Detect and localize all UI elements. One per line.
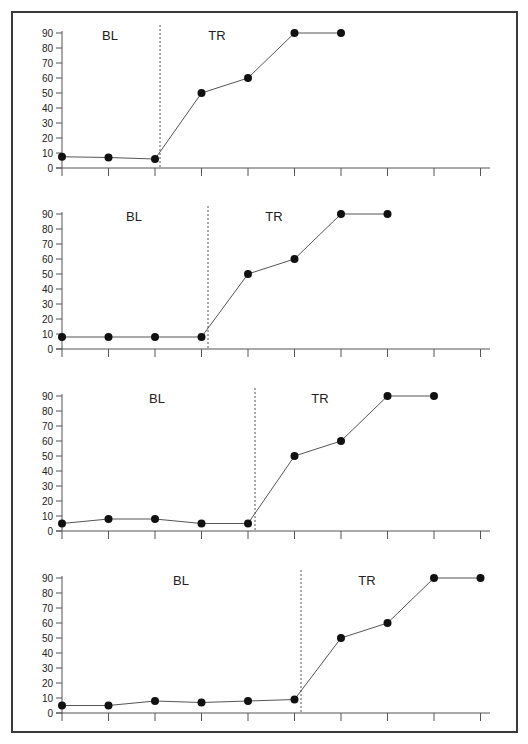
chart-panel-3: 0102030405060708090BLTR <box>42 388 490 539</box>
phase-label-treatment: TR <box>208 28 225 43</box>
y-tick-label: 60 <box>42 618 54 629</box>
baseline-data-point <box>105 154 113 162</box>
y-tick-label: 10 <box>42 329 54 340</box>
y-tick-label: 90 <box>42 573 54 584</box>
y-tick-label: 90 <box>42 209 54 220</box>
treatment-data-point <box>198 89 206 97</box>
y-tick-label: 70 <box>42 421 54 432</box>
baseline-data-point <box>105 702 113 710</box>
phase-label-baseline: BL <box>149 391 165 406</box>
y-tick-label: 20 <box>42 496 54 507</box>
treatment-data-point <box>337 437 345 445</box>
y-tick-label: 50 <box>42 451 54 462</box>
y-tick-label: 40 <box>42 103 54 114</box>
treatment-data-point <box>337 29 345 37</box>
y-tick-label: 20 <box>42 133 54 144</box>
y-tick-label: 0 <box>47 708 53 719</box>
data-line <box>62 578 481 706</box>
baseline-data-point <box>291 696 299 704</box>
y-tick-label: 90 <box>42 28 54 39</box>
treatment-data-point <box>337 210 345 218</box>
y-tick-label: 30 <box>42 481 54 492</box>
y-tick-label: 70 <box>42 58 54 69</box>
y-tick-label: 80 <box>42 224 54 235</box>
y-tick-label: 20 <box>42 314 54 325</box>
y-tick-label: 60 <box>42 436 54 447</box>
chart-panel-1: 0102030405060708090BLTR <box>42 25 490 176</box>
y-tick-label: 10 <box>42 511 54 522</box>
treatment-data-point <box>430 392 438 400</box>
y-tick-label: 80 <box>42 43 54 54</box>
treatment-data-point <box>384 210 392 218</box>
treatment-data-point <box>337 634 345 642</box>
baseline-data-point <box>151 697 159 705</box>
multiple-baseline-charts: 0102030405060708090BLTR01020304050607080… <box>0 0 528 744</box>
treatment-data-point <box>291 255 299 263</box>
phase-label-baseline: BL <box>126 209 142 224</box>
y-tick-label: 30 <box>42 299 54 310</box>
y-tick-label: 20 <box>42 678 54 689</box>
y-tick-label: 0 <box>47 526 53 537</box>
y-tick-label: 80 <box>42 406 54 417</box>
phase-label-treatment: TR <box>358 573 375 588</box>
baseline-data-point <box>198 333 206 341</box>
y-tick-label: 0 <box>47 344 53 355</box>
baseline-data-point <box>244 520 252 528</box>
y-tick-label: 60 <box>42 254 54 265</box>
y-tick-label: 60 <box>42 73 54 84</box>
baseline-data-point <box>198 520 206 528</box>
y-tick-label: 50 <box>42 269 54 280</box>
baseline-data-point <box>244 697 252 705</box>
y-tick-label: 10 <box>42 693 54 704</box>
treatment-data-point <box>477 574 485 582</box>
treatment-data-point <box>430 574 438 582</box>
baseline-data-point <box>58 520 66 528</box>
treatment-data-point <box>244 74 252 82</box>
phase-label-baseline: BL <box>102 28 118 43</box>
chart-panel-2: 0102030405060708090BLTR <box>42 206 490 357</box>
y-tick-label: 30 <box>42 118 54 129</box>
baseline-data-point <box>151 515 159 523</box>
y-tick-label: 0 <box>47 163 53 174</box>
y-tick-label: 70 <box>42 603 54 614</box>
treatment-data-point <box>384 619 392 627</box>
y-tick-label: 40 <box>42 648 54 659</box>
chart-panel-4: 0102030405060708090BLTR <box>42 570 490 721</box>
baseline-data-point <box>105 333 113 341</box>
phase-label-treatment: TR <box>311 391 328 406</box>
y-tick-label: 10 <box>42 148 54 159</box>
data-line <box>62 214 388 337</box>
baseline-data-point <box>58 333 66 341</box>
y-tick-label: 80 <box>42 588 54 599</box>
y-tick-label: 30 <box>42 663 54 674</box>
baseline-data-point <box>58 702 66 710</box>
baseline-data-point <box>151 155 159 163</box>
y-tick-label: 50 <box>42 88 54 99</box>
baseline-data-point <box>105 515 113 523</box>
treatment-data-point <box>291 29 299 37</box>
phase-label-treatment: TR <box>265 209 282 224</box>
baseline-data-point <box>198 699 206 707</box>
treatment-data-point <box>244 270 252 278</box>
treatment-data-point <box>384 392 392 400</box>
data-line <box>62 396 434 524</box>
y-tick-label: 70 <box>42 239 54 250</box>
y-tick-label: 90 <box>42 391 54 402</box>
y-tick-label: 40 <box>42 466 54 477</box>
y-tick-label: 40 <box>42 284 54 295</box>
baseline-data-point <box>151 333 159 341</box>
y-tick-label: 50 <box>42 633 54 644</box>
baseline-data-point <box>58 153 66 161</box>
treatment-data-point <box>291 452 299 460</box>
phase-label-baseline: BL <box>173 573 189 588</box>
